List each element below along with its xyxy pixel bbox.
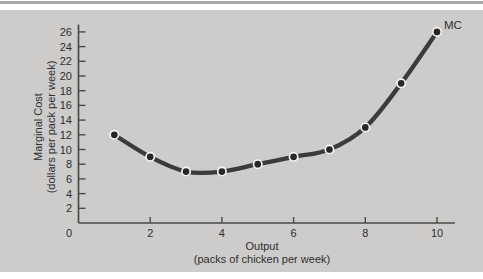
- svg-text:26: 26: [60, 26, 72, 38]
- curve-label-mc: MC: [444, 19, 462, 31]
- svg-text:2: 2: [66, 202, 72, 214]
- svg-text:10: 10: [60, 144, 72, 156]
- y-axis-title: Marginal Cost (dollars per pack per week…: [32, 37, 58, 217]
- y-axis-title-line1: Marginal Cost: [32, 37, 45, 217]
- svg-text:16: 16: [60, 99, 72, 111]
- svg-text:20: 20: [60, 70, 72, 82]
- x-axis-title-line1: Output: [162, 240, 362, 253]
- svg-text:22: 22: [60, 55, 72, 67]
- svg-text:8: 8: [66, 158, 72, 170]
- svg-text:4: 4: [219, 227, 225, 239]
- figure-page: { "figure": { "curve_label": "MC", "x_ti…: [0, 0, 483, 279]
- svg-text:10: 10: [431, 227, 443, 239]
- svg-text:18: 18: [60, 85, 72, 97]
- svg-text:2: 2: [147, 227, 153, 239]
- top-rule: [0, 1, 483, 4]
- svg-text:14: 14: [60, 114, 72, 126]
- svg-text:6: 6: [291, 227, 297, 239]
- x-axis-title-line2: (packs of chicken per week): [142, 253, 382, 266]
- svg-text:0: 0: [66, 227, 72, 239]
- chart-panel: 24681012141618202224262468100: [0, 10, 483, 272]
- svg-text:4: 4: [66, 188, 72, 200]
- svg-text:12: 12: [60, 129, 72, 141]
- mc-curve-chart: 24681012141618202224262468100: [0, 10, 483, 272]
- svg-text:6: 6: [66, 173, 72, 185]
- svg-text:8: 8: [362, 227, 368, 239]
- svg-text:24: 24: [60, 41, 72, 53]
- y-axis-title-line2: (dollars per pack per week): [45, 37, 58, 217]
